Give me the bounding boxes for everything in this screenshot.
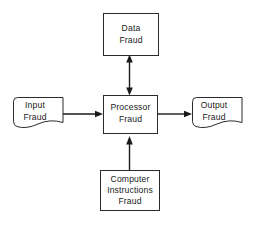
diagram-canvas: Data Fraud Input Fraud Processor Fraud O… bbox=[0, 0, 253, 227]
fraud-flow-diagram: Data Fraud Input Fraud Processor Fraud O… bbox=[0, 0, 253, 227]
edge-processor-output-arrowhead bbox=[184, 111, 192, 118]
data-fraud-label-line2: Fraud bbox=[119, 35, 142, 45]
processor-fraud-label-line2: Fraud bbox=[119, 114, 142, 124]
edge-input-processor-arrowhead bbox=[95, 111, 103, 118]
node-data-fraud[interactable]: Data Fraud bbox=[104, 14, 159, 56]
output-fraud-label-line2: Fraud bbox=[202, 112, 225, 122]
node-output-fraud[interactable]: Output Fraud bbox=[193, 98, 243, 128]
edge-instructions-processor-arrowhead bbox=[126, 136, 133, 145]
node-computer-instructions-fraud[interactable]: Computer Instructions Fraud bbox=[101, 171, 160, 211]
computer-instructions-fraud-label-line1: Computer bbox=[111, 174, 150, 184]
input-fraud-label-line2: Fraud bbox=[23, 112, 46, 122]
node-processor-fraud[interactable]: Processor Fraud bbox=[104, 96, 158, 134]
edge-processor-output bbox=[157, 111, 192, 118]
edge-instructions-processor bbox=[126, 136, 133, 170]
input-fraud-label-line1: Input bbox=[25, 100, 45, 110]
edge-processor-data bbox=[126, 55, 133, 96]
data-fraud-label-line1: Data bbox=[122, 23, 141, 33]
node-input-fraud[interactable]: Input Fraud bbox=[14, 98, 64, 128]
computer-instructions-fraud-label-line2: Instructions bbox=[107, 185, 153, 195]
edge-processor-data-arrowhead-down bbox=[126, 88, 133, 96]
computer-instructions-fraud-label-line3: Fraud bbox=[118, 196, 141, 206]
processor-fraud-label-line1: Processor bbox=[110, 102, 150, 112]
edge-input-processor bbox=[63, 111, 103, 118]
output-fraud-label-line1: Output bbox=[201, 100, 228, 110]
